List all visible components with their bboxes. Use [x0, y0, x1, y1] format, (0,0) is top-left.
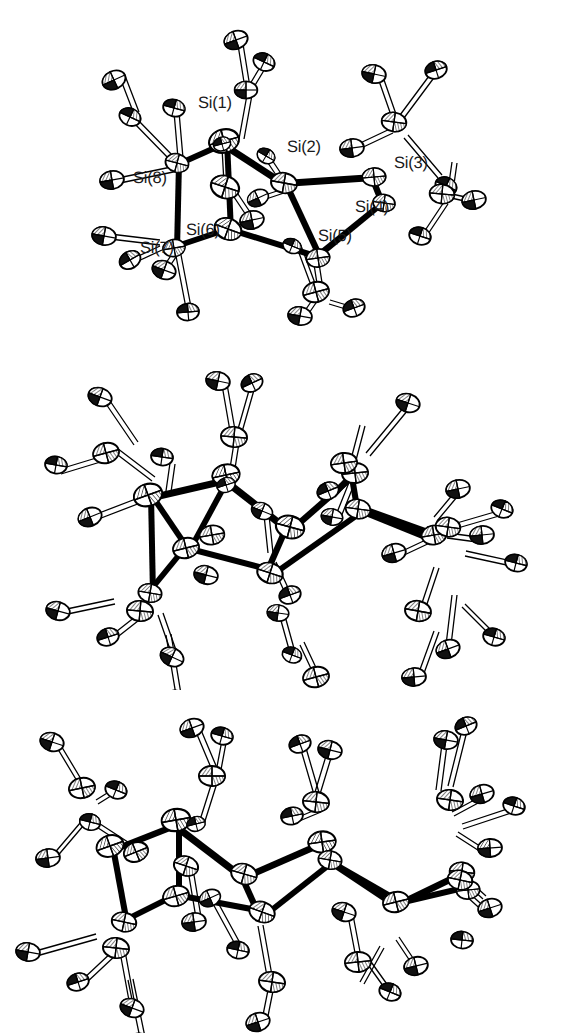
structure-panel-top: Si(1) Si(2) Si(3) Si(4) Si(5) Si(6) Si(7…	[0, 0, 581, 345]
ortep-drawing-top	[0, 0, 581, 345]
ortep-drawing-bottom	[0, 690, 581, 1033]
atom-label: Si(5)	[318, 228, 352, 245]
atom-label: Si(7)	[140, 240, 174, 257]
structure-panel-middle: Si(10) Si(1) Si(2) Si(3) Si(4) Si(5) Si(…	[0, 345, 581, 690]
atom-label: Si(4)	[355, 199, 389, 216]
atom-label: Si(6)	[186, 222, 220, 239]
structure-panel-bottom: Si(12) Si(1) Si(2) Si(3) Si(4) Si(5) Si(…	[0, 690, 581, 1033]
ortep-drawing-middle	[0, 345, 581, 690]
atom-label: Si(3)	[394, 155, 428, 172]
atom-label: Si(2)	[287, 139, 321, 156]
atom-label: Si(1)	[198, 95, 232, 112]
crystal-structure-figure: Si(1) Si(2) Si(3) Si(4) Si(5) Si(6) Si(7…	[0, 0, 581, 1033]
atom-label: Si(8)	[133, 170, 167, 187]
